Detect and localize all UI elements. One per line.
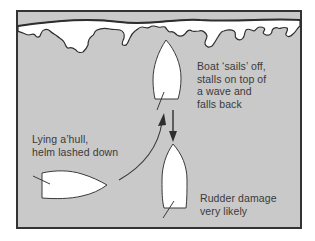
label-line: stalls on top of [197, 73, 266, 86]
label-line: Lying a’hull, [32, 133, 118, 146]
label-line: Boat ‘sails’ off, [197, 60, 266, 73]
label-lying-ahull: Lying a’hull, helm lashed down [32, 133, 118, 158]
label-line: helm lashed down [32, 146, 118, 159]
label-line: a wave and [197, 85, 266, 98]
label-sails-off: Boat ‘sails’ off, stalls on top of a wav… [197, 60, 266, 110]
label-line: falls back [197, 98, 266, 111]
label-rudder-damage: Rudder damage very likely [200, 192, 277, 217]
label-line: Rudder damage [200, 192, 277, 205]
lying-ahull-diagram: Boat ‘sails’ off, stalls on top of a wav… [0, 0, 315, 241]
label-line: very likely [200, 205, 277, 218]
